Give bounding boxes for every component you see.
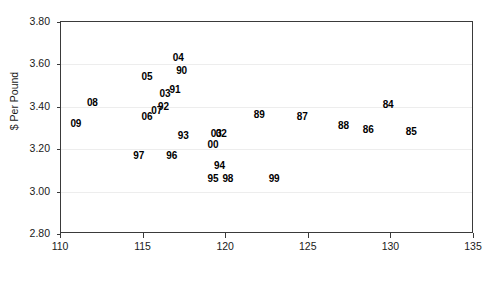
- data-point-label: 99: [269, 174, 280, 184]
- gridline: [61, 64, 472, 65]
- gridline: [61, 149, 472, 150]
- data-point-label: 04: [173, 53, 184, 63]
- data-point-label: 97: [133, 151, 144, 161]
- data-point-label: 91: [170, 85, 181, 95]
- x-tick-mark: [225, 233, 226, 238]
- data-point-label: 89: [254, 110, 265, 120]
- y-tick-mark: [57, 107, 61, 108]
- x-tick-mark: [308, 233, 309, 238]
- data-point-label: 87: [297, 112, 308, 122]
- y-tick-label: 3.60: [30, 57, 50, 69]
- y-tick-label: 2.80: [30, 227, 50, 239]
- x-tick-mark: [60, 233, 61, 238]
- data-point-label: 94: [214, 161, 225, 171]
- data-point-label: 84: [383, 100, 394, 110]
- y-tick-mark: [57, 149, 61, 150]
- x-tick-label: 135: [464, 240, 482, 252]
- x-tick-label: 115: [134, 240, 151, 252]
- x-tick-label: 110: [52, 240, 69, 252]
- x-tick-mark: [143, 233, 144, 238]
- y-tick-label: 3.80: [30, 15, 50, 27]
- gridline: [61, 192, 472, 193]
- data-point-label: 08: [87, 98, 98, 108]
- y-tick-mark: [57, 192, 61, 193]
- data-point-label: 92: [158, 102, 169, 112]
- plot-area: 0908970605079203969104909395000302949889…: [60, 21, 473, 233]
- data-point-label: 09: [70, 119, 81, 129]
- data-point-label: 86: [363, 125, 374, 135]
- data-point-label: 05: [141, 72, 152, 82]
- scatter-chart: 2.803.003.203.403.603.80 $ Per Pound 090…: [0, 0, 498, 287]
- data-point-label: 85: [406, 127, 417, 137]
- data-point-label: 95: [208, 174, 219, 184]
- x-tick-label: 125: [299, 240, 317, 252]
- x-tick-label: 130: [382, 240, 400, 252]
- y-axis-title: $ Per Pound: [8, 41, 20, 161]
- y-tick-mark: [57, 64, 61, 65]
- data-point-label: 96: [166, 151, 177, 161]
- data-point-label: 00: [208, 140, 219, 150]
- x-tick-mark: [473, 233, 474, 238]
- data-point-label: 88: [338, 121, 349, 131]
- x-tick-label: 120: [216, 240, 234, 252]
- gridline: [61, 107, 472, 108]
- data-point-label: 98: [222, 174, 233, 184]
- y-tick-label: 3.40: [30, 100, 50, 112]
- data-point-label: 90: [176, 66, 187, 76]
- y-tick-label: 3.00: [30, 185, 50, 197]
- x-tick-mark: [390, 233, 391, 238]
- data-point-label: 02: [216, 129, 227, 139]
- data-point-label: 93: [178, 131, 189, 141]
- y-tick-label: 3.20: [30, 142, 50, 154]
- y-tick-mark: [57, 22, 61, 23]
- x-axis: 110115120125130135: [60, 233, 473, 263]
